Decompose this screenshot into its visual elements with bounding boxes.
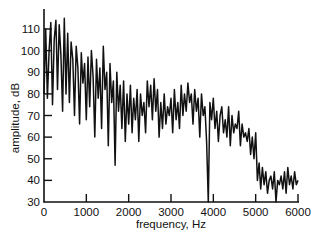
x-tick-label: 4000 bbox=[201, 206, 227, 218]
y-tick-label: 100 bbox=[21, 45, 40, 57]
x-axis-label: frequency, Hz bbox=[136, 218, 206, 230]
spectrum-line bbox=[44, 18, 298, 202]
y-tick-label: 90 bbox=[27, 66, 40, 78]
x-axis-ticks: 0100020003000400050006000 bbox=[41, 194, 311, 218]
x-tick-label: 1000 bbox=[74, 206, 100, 218]
y-axis-label: amplitude, dB bbox=[9, 83, 21, 154]
x-tick-label: 3000 bbox=[158, 206, 184, 218]
y-tick-label: 30 bbox=[27, 196, 40, 208]
y-tick-label: 60 bbox=[27, 131, 40, 143]
series-spectrum bbox=[44, 18, 298, 202]
y-tick-label: 40 bbox=[27, 174, 40, 186]
x-tick-label: 0 bbox=[41, 206, 47, 218]
y-tick-label: 110 bbox=[22, 23, 40, 35]
x-tick-label: 2000 bbox=[116, 206, 142, 218]
x-tick-label: 6000 bbox=[285, 206, 311, 218]
y-tick-label: 80 bbox=[27, 88, 40, 100]
y-tick-label: 70 bbox=[27, 110, 40, 122]
x-tick-label: 5000 bbox=[243, 206, 269, 218]
chart: 0100020003000400050006000 30405060708090… bbox=[0, 0, 318, 239]
y-tick-label: 50 bbox=[27, 153, 40, 165]
y-axis-ticks: 30405060708090100110 bbox=[21, 23, 52, 208]
